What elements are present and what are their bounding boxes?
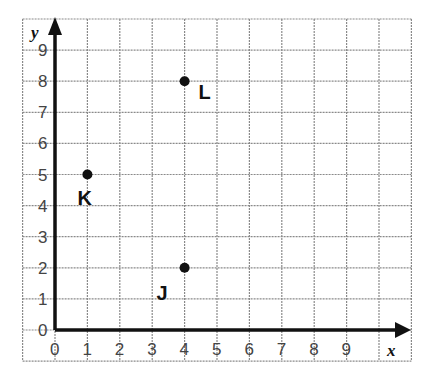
- x-tick-label: 1: [82, 340, 91, 359]
- y-axis-arrow-icon: [48, 17, 62, 35]
- coordinate-plane: y x 01234567890123456789 KLJ: [0, 0, 435, 386]
- y-tick-label: 9: [38, 41, 47, 60]
- point-label-j: J: [157, 282, 168, 304]
- x-tick-label: 2: [115, 340, 124, 359]
- point-j: [180, 263, 190, 273]
- x-tick-label: 6: [244, 340, 253, 359]
- y-tick-label: 8: [38, 72, 47, 91]
- y-tick-label: 6: [38, 134, 47, 153]
- point-label-l: L: [199, 81, 211, 103]
- y-tick-label: 5: [38, 166, 47, 185]
- y-tick-label: 7: [38, 103, 47, 122]
- y-axis-label: y: [29, 23, 39, 42]
- x-tick-label: 7: [277, 340, 286, 359]
- y-tick-label: 3: [38, 228, 47, 247]
- point-l: [180, 76, 190, 86]
- x-tick-label: 9: [342, 340, 351, 359]
- x-tick-label: 5: [212, 340, 221, 359]
- x-axis-label: x: [386, 341, 396, 360]
- data-points: KLJ: [77, 76, 210, 304]
- x-tick-label: 0: [50, 340, 59, 359]
- point-k: [82, 170, 92, 180]
- y-tick-label: 1: [38, 290, 47, 309]
- y-tick-label: 4: [38, 197, 47, 216]
- y-tick-label: 0: [38, 321, 47, 340]
- x-tick-label: 3: [147, 340, 156, 359]
- y-tick-label: 2: [38, 259, 47, 278]
- x-tick-label: 4: [180, 340, 189, 359]
- x-axis-arrow-icon: [395, 322, 411, 338]
- x-tick-label: 8: [309, 340, 318, 359]
- point-label-k: K: [77, 187, 92, 209]
